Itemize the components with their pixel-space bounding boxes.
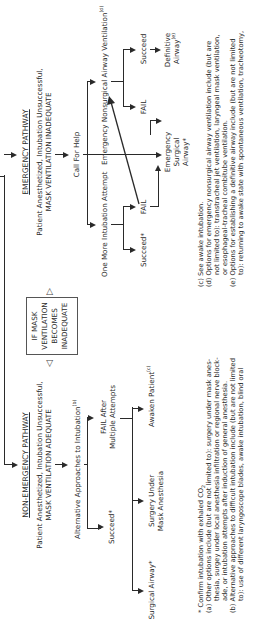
arrow-to-emergency-surgical (156, 152, 162, 158)
ns-succeed: Succeed (140, 29, 148, 69)
om-branch (123, 206, 124, 250)
footnote-d-2: not limited to): transtracheal jet venti… (213, 35, 221, 275)
em-branch-line (87, 153, 88, 225)
arrow-ns-succeed (130, 47, 136, 53)
hollow-arrow-right-icon: ▷ (45, 288, 54, 295)
footnote-e-2: to): returning to awake state with spont… (237, 31, 245, 275)
om-succeed: Succeed* (140, 230, 148, 270)
ne-surgical-airway: Surgical Airway* (148, 559, 156, 621)
footnote-a-2: thesia, surgey under local anesthesia in… (213, 357, 221, 601)
footnote-d-3: or esophageal-tracheal combitube ventila… (221, 120, 229, 275)
arrow-to-fail (88, 415, 94, 421)
alt-approaches-label: Alternative Approaches to Intubation(b) (74, 400, 82, 539)
transition-line-4: INADEQUATE (61, 298, 69, 354)
arrow-to-call-help (63, 152, 69, 158)
footnote-d-1: (d) Options for emergency nonsurgical ai… (205, 41, 213, 287)
call-for-help: Call For Help (73, 117, 81, 192)
non-emergency-heading: NON-EMERGENCY PATHWAY (22, 375, 30, 555)
transition-line-2: VENTILATION (41, 298, 49, 354)
ne-awaken: Awaken Patient(c) (148, 366, 156, 428)
arrow-to-alt-approaches (62, 462, 68, 468)
em-right-branch (87, 81, 88, 155)
arrow-to-definitive (155, 47, 161, 53)
footnote-a-1: (a) Other options include (but are not l… (205, 359, 213, 613)
footnote-c-1: (c) See awake intubation. (197, 202, 205, 287)
om-fail-right (158, 169, 159, 207)
arrow-to-surgery-mask (138, 498, 144, 504)
arrow-to-awaken (138, 406, 144, 412)
non-emergency-condition-2: MASK VENTILATION ADEQUATE (45, 355, 53, 575)
arrow-to-non-emergency (12, 462, 18, 468)
arrow-to-succeed (98, 524, 104, 530)
footnote-b-2: to): use of different laryngoscope blade… (237, 368, 245, 601)
footnote-e-1: (e) Options for establishing a definitiv… (229, 39, 237, 287)
footnote-a-3: ade, or intubation attempts after induct… (221, 381, 229, 601)
hollow-arrow-left-icon: ◁ (45, 360, 54, 367)
arrow-om-to-surgical (155, 165, 161, 171)
arrow-to-one-more (90, 222, 96, 228)
ns-branch (123, 49, 124, 107)
footnote-b-1: (b) Alternative approaches to difficult … (229, 358, 237, 613)
emergency-condition-2: MASK VENTILATION INADEQUATE (45, 42, 53, 262)
ne-fail-2: Multiple Attempts (109, 382, 117, 452)
arrow-ns-to-surgical (156, 118, 162, 124)
transition-box: IF MASK VENTILATION BECOMES INADEQUATE (26, 297, 78, 355)
arrow-to-nonsurgical (90, 79, 96, 85)
trunk-split-line (4, 175, 5, 465)
ns-fail: FAIL (140, 93, 148, 121)
em-surgical-3: Airway* (182, 127, 190, 177)
ne-branch-line (87, 417, 88, 529)
ns-fail-left (150, 120, 151, 135)
arrow-to-surgical-airway (138, 588, 144, 594)
ne-surgery-mask-2: Mask Anesthesia (157, 465, 165, 537)
arrow-om-succeed (130, 247, 136, 253)
arrow-to-emergency (11, 152, 17, 158)
arrow-ns-fail (130, 104, 136, 110)
transition-line-3: BECOMES (51, 298, 59, 354)
emergency-heading: EMERGENCY PATHWAY (22, 72, 30, 232)
definitive-2: Airway(e) (173, 33, 181, 64)
ne-succeed: Succeed* (108, 507, 116, 547)
transition-line-1: IF MASK (31, 298, 39, 354)
